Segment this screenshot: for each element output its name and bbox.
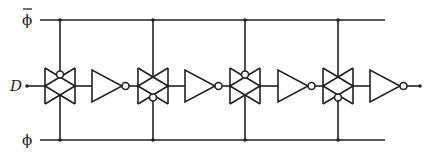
labels: ϕ ϕ D bbox=[9, 9, 32, 149]
junction-dot-bottom bbox=[243, 138, 247, 142]
output-terminal-dot bbox=[418, 84, 422, 88]
tg-bubble-bottom bbox=[150, 94, 157, 101]
junction-dot-top bbox=[336, 18, 340, 22]
inverter-bubble bbox=[215, 83, 222, 90]
inverter bbox=[370, 70, 400, 102]
tg-bubble-bottom bbox=[335, 94, 342, 101]
junction-dot-top bbox=[151, 18, 155, 22]
inverter bbox=[278, 70, 308, 102]
circuit-wiring bbox=[25, 18, 422, 142]
inverter-bubble bbox=[400, 83, 407, 90]
junction-dot-top bbox=[58, 18, 62, 22]
junction-dot-bottom bbox=[151, 138, 155, 142]
inverter-bubble bbox=[122, 83, 129, 90]
phi-bar-label: ϕ bbox=[22, 11, 32, 29]
input-d-label: D bbox=[9, 77, 22, 95]
junction-dot-bottom bbox=[58, 138, 62, 142]
tg-bubble-top bbox=[242, 71, 249, 78]
tg-bubble-top bbox=[57, 71, 64, 78]
inverter bbox=[92, 70, 122, 102]
inverter bbox=[185, 70, 215, 102]
phi-label: ϕ bbox=[22, 131, 32, 149]
junction-dot-top bbox=[243, 18, 247, 22]
junction-dot-bottom bbox=[336, 138, 340, 142]
inverter-bubble bbox=[308, 83, 315, 90]
circuit-diagram: ϕ ϕ D bbox=[0, 0, 435, 155]
